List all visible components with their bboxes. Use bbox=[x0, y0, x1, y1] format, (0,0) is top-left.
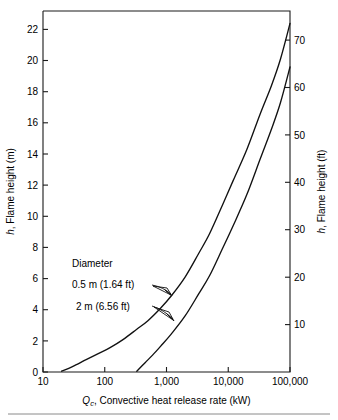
y-left-tick-label: 16 bbox=[27, 117, 39, 128]
y-right-axis-title: h, Flame height (ft) bbox=[316, 150, 327, 234]
y-left-tick-label: 18 bbox=[27, 86, 39, 97]
flame-height-chart: 0 2 4 6 8 10 12 14 16 18 20 22 10 20 bbox=[0, 0, 338, 420]
x-tick-label: 10 bbox=[37, 376, 49, 387]
curve-diameter-0-5m bbox=[62, 23, 290, 371]
y-left-axis-title-rest: , Flame height (m) bbox=[5, 148, 16, 229]
annotation-group: Diameter 0.5 m (1.64 ft) 2 m (6.56 ft) bbox=[72, 258, 174, 321]
leader-arrowhead-series-1 bbox=[153, 286, 172, 296]
y-right-tick-label: 30 bbox=[294, 224, 306, 235]
x-tick-label: 100,000 bbox=[272, 376, 309, 387]
y-left-tick-label: 12 bbox=[27, 180, 39, 191]
y-left-tick-label: 20 bbox=[27, 55, 39, 66]
y-left-tick-label: 10 bbox=[27, 211, 39, 222]
y-left-tick-label: 2 bbox=[32, 336, 38, 347]
y-left-tick-label: 22 bbox=[27, 24, 39, 35]
x-tick-label: 1,000 bbox=[154, 376, 179, 387]
y-left-tick-label: 6 bbox=[32, 273, 38, 284]
x-axis-title: Qc, Convective heat release rate (kW) bbox=[82, 395, 250, 408]
y-left-tick-label: 4 bbox=[32, 304, 38, 315]
figure-container: 0 2 4 6 8 10 12 14 16 18 20 22 10 20 bbox=[0, 0, 338, 420]
y-right-tick-labels: 10 20 30 40 50 60 70 bbox=[294, 35, 306, 331]
curve-diameter-2m bbox=[137, 67, 290, 371]
y-left-axis-title: h, Flame height (m) bbox=[5, 148, 16, 235]
y-right-tick-label: 60 bbox=[294, 82, 306, 93]
y-right-tick-label: 10 bbox=[294, 319, 306, 330]
y-left-ticks bbox=[43, 29, 48, 372]
y-left-tick-labels: 0 2 4 6 8 10 12 14 16 18 20 22 bbox=[27, 24, 39, 378]
y-right-tick-label: 50 bbox=[294, 130, 306, 141]
y-right-tick-label: 70 bbox=[294, 35, 306, 46]
x-tick-label: 100 bbox=[96, 376, 113, 387]
x-axis-title-rest: , Convective heat release rate (kW) bbox=[94, 395, 251, 406]
x-ticks bbox=[43, 367, 290, 372]
y-left-tick-label: 14 bbox=[27, 149, 39, 160]
y-right-axis-title-rest: , Flame height (ft) bbox=[316, 150, 327, 228]
annotation-series-1-label: 0.5 m (1.64 ft) bbox=[72, 279, 134, 290]
x-tick-label: 10,000 bbox=[213, 376, 244, 387]
leader-arrowhead-series-2 bbox=[154, 307, 174, 321]
y-right-tick-label: 40 bbox=[294, 177, 306, 188]
annotation-series-2-label: 2 m (6.56 ft) bbox=[76, 301, 130, 312]
data-curves bbox=[62, 23, 290, 371]
x-tick-labels: 10 100 1,000 10,000 100,000 bbox=[37, 376, 308, 387]
y-right-tick-label: 20 bbox=[294, 272, 306, 283]
annotation-diameter-title: Diameter bbox=[72, 258, 113, 269]
y-left-tick-label: 8 bbox=[32, 242, 38, 253]
plot-frame bbox=[43, 11, 290, 372]
